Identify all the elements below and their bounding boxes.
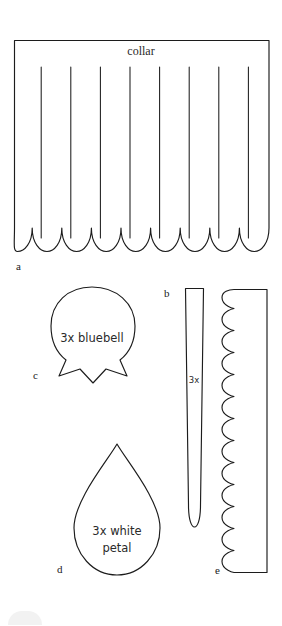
piece-e-label: e <box>215 564 220 576</box>
piece-d-caption-line1: 3x white <box>92 524 141 538</box>
pattern-sheet: collar a 3x bluebell c 3x white petal d … <box>0 0 282 626</box>
piece-d-outline <box>74 444 160 575</box>
pattern-diagram: collar a 3x bluebell c 3x white petal d … <box>0 0 282 626</box>
piece-a-caption: collar <box>127 44 154 58</box>
piece-b-strip: 3x b <box>164 287 204 527</box>
piece-b-label: b <box>164 287 170 299</box>
piece-e-outline <box>222 290 267 573</box>
piece-c-label: c <box>33 369 38 381</box>
piece-e-scallop-strip: e <box>215 290 267 577</box>
piece-b-outline <box>186 289 204 528</box>
piece-a-label: a <box>16 260 21 272</box>
piece-c-bluebell: 3x bluebell c <box>33 287 135 383</box>
piece-d-caption-line2: petal <box>102 541 131 555</box>
piece-d-label: d <box>57 563 63 575</box>
piece-b-caption: 3x <box>189 375 199 385</box>
piece-a-outline <box>14 41 269 252</box>
piece-a-collar: collar a <box>14 41 269 273</box>
piece-c-caption: 3x bluebell <box>60 331 123 345</box>
piece-d-petal: 3x white petal d <box>57 444 160 575</box>
